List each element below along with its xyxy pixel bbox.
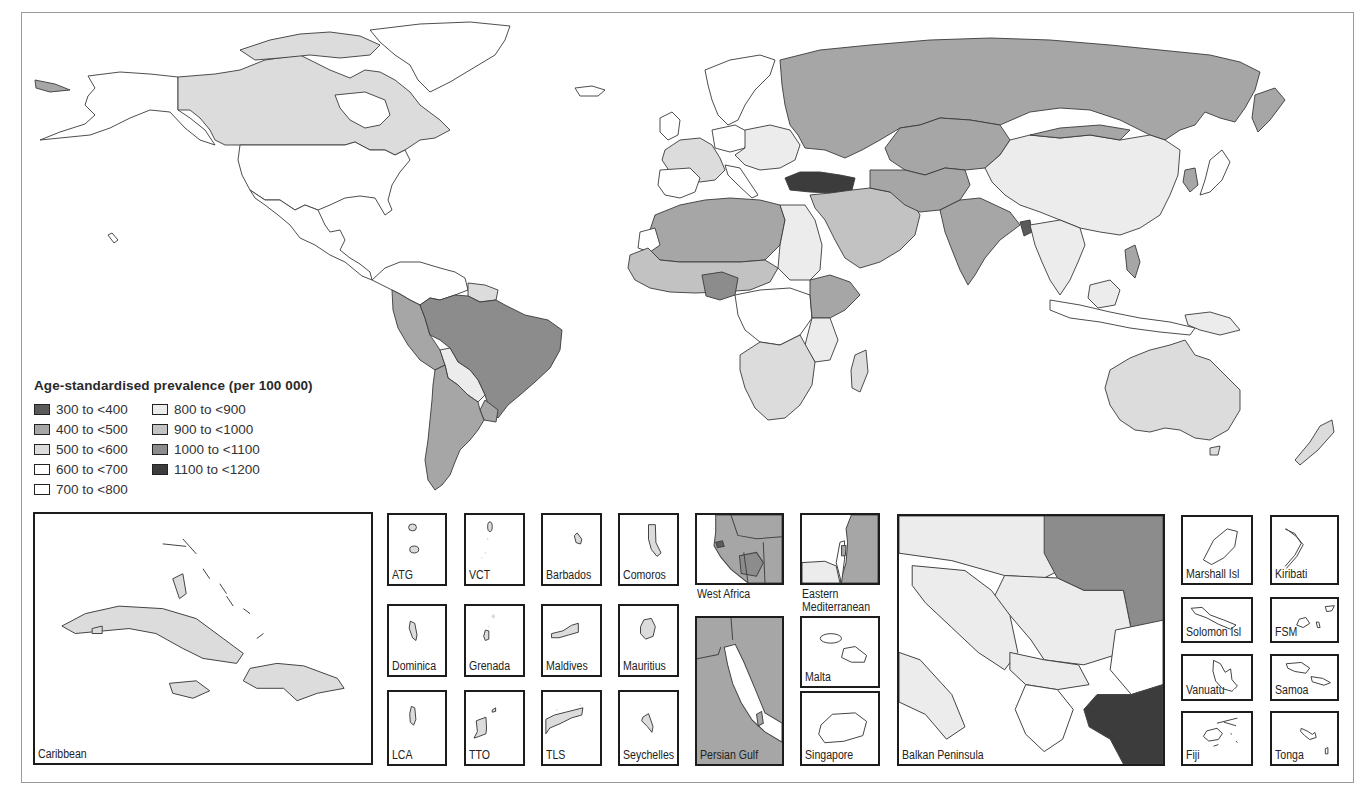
region-north-africa (648, 198, 785, 262)
inset-label: EasternMediterranean (802, 588, 870, 614)
inset-fsm: FSM (1270, 597, 1339, 643)
inset-vct: VCT (464, 513, 525, 586)
inset-shape (1203, 728, 1222, 741)
inset-label: Maldives (546, 659, 588, 673)
legend-swatch (34, 464, 50, 475)
region-horn-east-africa (810, 275, 860, 318)
inset-maldives: Maldives (541, 604, 602, 677)
inset-shape (579, 704, 580, 706)
region-philippines (1125, 245, 1140, 278)
inset-shape (1325, 606, 1334, 612)
inset-label: Persian Gulf (700, 748, 758, 762)
inset-tls: TLS (541, 690, 602, 766)
inset-label: Marshall Isl (1186, 567, 1239, 581)
inset-label: FSM (1275, 625, 1297, 639)
region-germany-central (712, 125, 748, 152)
region-canada (178, 55, 450, 155)
inset-shape (1325, 748, 1328, 754)
inset-shape (410, 546, 419, 553)
inset-marshall-isl: Marshall Isl (1181, 515, 1253, 585)
region-new-guinea (1185, 312, 1240, 335)
region-italy (725, 165, 758, 198)
inset-shape (716, 541, 725, 548)
legend-label: 800 to <900 (174, 402, 246, 417)
inset-shape (481, 557, 482, 559)
inset-map-eastern-mediterranean (802, 515, 878, 583)
inset-shape (1285, 529, 1303, 569)
region-scandinavia (705, 55, 775, 125)
inset-shape (243, 663, 344, 700)
inset-shape (546, 708, 583, 734)
region-borneo (1088, 280, 1120, 308)
inset-shape (1084, 685, 1163, 764)
inset-caribbean: Caribbean (33, 512, 373, 765)
inset-label: Kiribati (1275, 567, 1307, 581)
region-turkey (785, 172, 855, 193)
inset-label: VCT (469, 568, 490, 582)
inset-label: Malta (805, 670, 831, 684)
inset-kiribati: Kiribati (1270, 515, 1339, 585)
inset-shape (1301, 728, 1317, 739)
inset-lca: LCA (387, 690, 447, 766)
inset-map-west-africa (697, 515, 782, 583)
region-indonesia (1050, 300, 1195, 335)
inset-shape (899, 652, 965, 739)
inset-eastern-mediterranean (800, 513, 880, 585)
inset-shape (62, 606, 243, 663)
region-egypt-sudan (778, 205, 822, 280)
inset-shape (173, 574, 186, 599)
inset-shape (574, 533, 581, 544)
inset-shape (488, 522, 493, 532)
inset-shape (409, 524, 417, 531)
inset-shape (556, 709, 557, 711)
region-bangladesh (1020, 220, 1032, 236)
inset-comoros: Comoros (618, 513, 679, 586)
inset-shape (484, 630, 489, 640)
legend-label: 700 to <800 (56, 482, 128, 497)
region-india (940, 198, 1020, 285)
inset-shape (492, 614, 495, 618)
inset-shape (649, 525, 662, 557)
inset-shape (642, 714, 653, 733)
legend-label: 400 to <500 (56, 422, 128, 437)
legend-title: Age-standardised prevalence (per 100 000… (34, 378, 313, 393)
inset-malta: Malta (800, 616, 880, 688)
inset-label: Barbados (546, 568, 591, 582)
inset-label: Samoa (1275, 683, 1308, 697)
inset-label: LCA (392, 748, 413, 762)
inset-shape (409, 621, 417, 640)
inset-shape (1015, 685, 1073, 752)
region-nigeria (702, 272, 738, 300)
inset-shape (1110, 620, 1163, 694)
legend-label: 1100 to <1200 (174, 462, 260, 477)
inset-grenada: Grenada (464, 604, 525, 677)
legend-swatch (34, 404, 50, 415)
legend-swatch (34, 484, 50, 495)
legend-label: 900 to <1000 (174, 422, 253, 437)
inset-shape (544, 711, 547, 715)
region-southeast-asia (1030, 220, 1085, 295)
region-hawaii (108, 233, 118, 243)
inset-mauritius: Mauritius (618, 604, 679, 677)
region-australia (1105, 340, 1240, 440)
inset-label: West Africa (697, 588, 750, 601)
inset-shape (410, 706, 416, 725)
inset-vanuatu: Vanuatu (1181, 654, 1253, 701)
inset-shape (169, 681, 209, 698)
region-uk (660, 112, 680, 140)
region-southern-africa (740, 335, 815, 420)
region-japan (1200, 150, 1230, 195)
inset-west-africa (695, 513, 784, 585)
region-kamchatka (1252, 88, 1285, 132)
inset-shape (842, 546, 847, 556)
legend-label: 600 to <700 (56, 462, 128, 477)
inset-seychelles: Seychelles (618, 690, 679, 766)
inset-label: Comoros (623, 568, 666, 582)
inset-shape (487, 538, 489, 540)
inset-shape (819, 713, 867, 743)
inset-shape (820, 634, 841, 644)
region-korea (1183, 168, 1198, 192)
inset-shape (1297, 617, 1310, 627)
region-madagascar (851, 350, 868, 392)
inset-label: Tonga (1275, 748, 1304, 762)
